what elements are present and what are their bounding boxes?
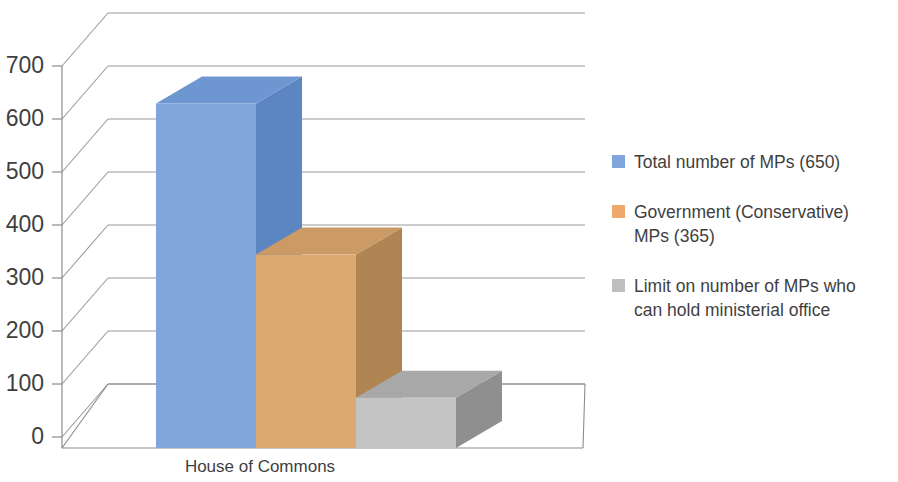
y-axis-tick-labels: 700 600 500 400 300 200 100 0	[6, 52, 44, 449]
legend-swatch-orange-icon	[612, 205, 625, 218]
bar-front-face	[256, 255, 356, 448]
floor-right-edge	[583, 384, 585, 448]
y-tick-label: 100	[6, 370, 44, 396]
bar-front-face	[156, 104, 256, 449]
y-tick-label: 700	[6, 52, 44, 78]
legend-item-government-mps[interactable]: Government (Conservative) MPs (365)	[612, 200, 898, 248]
axis-depth-connectors	[62, 13, 108, 437]
legend-swatch-blue-icon	[612, 155, 625, 168]
legend-label: Government (Conservative) MPs (365)	[634, 200, 849, 248]
category-axis-label: House of Commons	[185, 457, 335, 476]
chart-legend: Total number of MPs (650) Government (Co…	[612, 150, 898, 322]
chart-area: 700 600 500 400 300 200 100 0 House of C…	[0, 0, 898, 482]
legend-label: Total number of MPs (650)	[634, 150, 840, 174]
legend-label: Limit on number of MPs who can hold mini…	[634, 274, 856, 322]
y-tick-label: 600	[6, 105, 44, 131]
y-tick-label: 0	[31, 423, 44, 449]
floor-left-edge	[62, 384, 108, 448]
y-tick-label: 200	[6, 317, 44, 343]
legend-item-total-mps[interactable]: Total number of MPs (650)	[612, 150, 898, 174]
legend-swatch-gray-icon	[612, 279, 625, 292]
y-tick-label: 400	[6, 211, 44, 237]
y-tick-label: 300	[6, 264, 44, 290]
bar-front-face	[356, 398, 456, 448]
value-axis	[52, 66, 62, 448]
bar-group	[156, 77, 502, 449]
y-tick-label: 500	[6, 158, 44, 184]
legend-item-ministerial-limit[interactable]: Limit on number of MPs who can hold mini…	[612, 274, 898, 322]
